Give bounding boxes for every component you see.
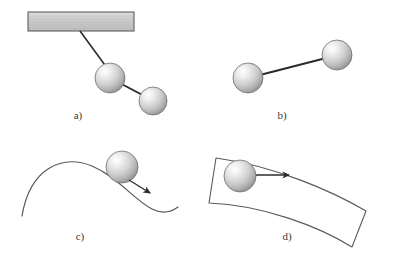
panel-label-b: b) [277,109,287,122]
rolling-sphere-c [106,151,138,183]
rolling-sphere-d [224,160,256,192]
panel-label-c: c) [76,230,85,243]
pendulum-sphere-upper [95,63,125,93]
panel-label-a: a) [74,109,83,122]
pendulum-sphere-lower [139,87,167,115]
panel-label-d: d) [282,230,292,243]
dumbbell-sphere-right [322,40,352,70]
dumbbell-sphere-left [233,63,263,93]
figure-canvas: a) b) c) d) [0,0,395,259]
physics-figure: a) b) c) d) [0,0,395,259]
